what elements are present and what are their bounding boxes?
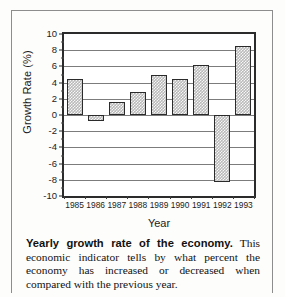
y-tick-mark bbox=[59, 98, 64, 99]
x-tick-label: 1986 bbox=[86, 200, 105, 210]
y-tick-mark bbox=[59, 147, 64, 148]
y-tick-minor bbox=[61, 58, 64, 59]
x-tick-mark bbox=[233, 196, 234, 199]
y-tick-label: 2 bbox=[18, 94, 64, 104]
x-axis-title: Year bbox=[62, 217, 256, 229]
x-tick-mark bbox=[64, 196, 65, 199]
y-tick-label: 0 bbox=[18, 110, 64, 120]
figure-caption: Yearly growth rate of the economy. This … bbox=[26, 237, 260, 291]
x-tick-label: 1993 bbox=[234, 200, 253, 210]
bar bbox=[235, 46, 251, 115]
y-tick-label: -4 bbox=[18, 143, 64, 153]
bar bbox=[67, 79, 83, 115]
bar-slot bbox=[148, 34, 169, 196]
x-tick-mark bbox=[85, 196, 86, 199]
x-tick-label: 1985 bbox=[65, 200, 84, 210]
y-tick-mark bbox=[59, 163, 64, 164]
bar bbox=[214, 115, 230, 182]
bar-slot bbox=[233, 34, 254, 196]
y-tick-mark bbox=[59, 50, 64, 51]
y-tick-mark bbox=[59, 179, 64, 180]
x-tick-mark bbox=[148, 196, 149, 199]
y-tick-mark bbox=[59, 82, 64, 83]
bar bbox=[151, 75, 167, 116]
bar-slot bbox=[127, 34, 148, 196]
y-tick-minor bbox=[61, 42, 64, 43]
y-tick-label: 10 bbox=[18, 29, 64, 39]
x-tick-mark bbox=[127, 196, 128, 199]
y-tick-minor bbox=[61, 123, 64, 124]
x-tick-label: 1987 bbox=[107, 200, 126, 210]
x-tick-label: 1991 bbox=[192, 200, 211, 210]
y-tick-mark bbox=[59, 66, 64, 67]
bar bbox=[88, 115, 104, 121]
figure-panel: Growth Rate (%) 1086420-2-4-6-8-10 19851… bbox=[0, 0, 285, 297]
x-tick-label: 1992 bbox=[213, 200, 232, 210]
x-tick-label: 1988 bbox=[129, 200, 148, 210]
y-tick-minor bbox=[61, 155, 64, 156]
y-tick-mark bbox=[59, 34, 64, 35]
y-tick-minor bbox=[61, 106, 64, 107]
bar-slot bbox=[64, 34, 85, 196]
bars-layer bbox=[64, 34, 254, 196]
y-tick-label: -6 bbox=[18, 159, 64, 169]
x-tick-mark bbox=[212, 196, 213, 199]
plot-area: 1086420-2-4-6-8-10 198519861987198819891… bbox=[62, 32, 256, 198]
y-tick-minor bbox=[61, 139, 64, 140]
y-tick-minor bbox=[61, 187, 64, 188]
y-tick-minor bbox=[61, 74, 64, 75]
bar-slot bbox=[170, 34, 191, 196]
bar-slot bbox=[212, 34, 233, 196]
y-tick-label: -8 bbox=[18, 175, 64, 185]
y-tick-minor bbox=[61, 90, 64, 91]
bar bbox=[193, 65, 209, 115]
bar-slot bbox=[85, 34, 106, 196]
bar bbox=[130, 92, 146, 115]
y-tick-mark bbox=[59, 131, 64, 132]
bar-chart: Growth Rate (%) 1086420-2-4-6-8-10 19851… bbox=[0, 14, 285, 220]
bar-slot bbox=[191, 34, 212, 196]
y-tick-label: -2 bbox=[18, 126, 64, 136]
x-tick-label: 1990 bbox=[171, 200, 190, 210]
x-tick-mark bbox=[170, 196, 171, 199]
y-tick-label: -10 bbox=[18, 191, 64, 201]
x-tick-mark bbox=[191, 196, 192, 199]
y-tick-minor bbox=[61, 171, 64, 172]
y-tick-mark bbox=[59, 115, 64, 116]
bar bbox=[109, 102, 125, 115]
x-tick-mark bbox=[106, 196, 107, 199]
bar bbox=[172, 79, 188, 115]
x-tick-mark bbox=[254, 196, 255, 199]
x-tick-label: 1989 bbox=[150, 200, 169, 210]
bar-slot bbox=[106, 34, 127, 196]
y-tick-label: 4 bbox=[18, 78, 64, 88]
caption-lead: Yearly growth rate of the economy. bbox=[26, 237, 233, 249]
y-tick-label: 8 bbox=[18, 45, 64, 55]
y-tick-label: 6 bbox=[18, 62, 64, 72]
